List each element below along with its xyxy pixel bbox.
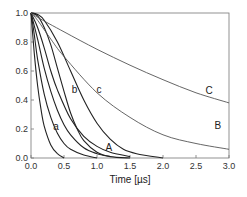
plot-frame <box>31 13 229 158</box>
curve-c <box>31 13 229 103</box>
y-tick-label: 0.2 <box>15 124 28 134</box>
curve-label-B: B <box>214 120 221 131</box>
x-tick-label: 3.0 <box>223 161 236 171</box>
curve-labels: abcABC <box>53 84 221 153</box>
y-tick-label: 0.0 <box>15 153 28 163</box>
x-tick-label: 1.5 <box>124 161 137 171</box>
curve-b <box>31 13 130 158</box>
y-tick-label: 0.4 <box>15 95 28 105</box>
curve-label-a: a <box>53 121 59 132</box>
y-tick-label: 0.8 <box>15 37 28 47</box>
curve-label-C: C <box>206 85 213 96</box>
x-axis-label: Time [µs] <box>110 174 151 185</box>
y-tick-label: 1.0 <box>15 8 28 18</box>
curves <box>31 13 229 158</box>
curve-label-A: A <box>106 142 113 153</box>
y-tick-label: 0.6 <box>15 66 28 76</box>
x-tick-label: 2.0 <box>157 161 170 171</box>
curve-label-c: c <box>96 84 101 95</box>
x-tick-label: 0.5 <box>58 161 71 171</box>
x-tick-label: 2.5 <box>190 161 203 171</box>
curve-label-b: b <box>72 84 78 95</box>
x-axis-ticks: 0.00.51.01.52.02.53.0 <box>25 155 236 171</box>
curve-unlabeled-2 <box>31 13 97 158</box>
decay-chart: 0.00.51.01.52.02.53.0 0.00.20.40.60.81.0… <box>0 0 247 197</box>
x-tick-label: 1.0 <box>91 161 104 171</box>
